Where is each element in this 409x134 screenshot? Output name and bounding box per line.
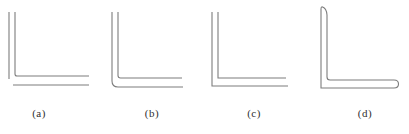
figure-c-label: (c) [247,107,261,119]
figure-c-inner-corner-line [218,12,286,78]
figure-canvas: (a) (b) (c) (d) [0,0,409,134]
figure-a-open-corner [9,12,89,85]
figure-c-outer-corner-line [212,12,288,86]
figure-b-label: (b) [145,107,159,119]
corner-conventions-diagram [0,0,409,134]
figure-d-closed-profile [321,7,399,88]
figure-d-profile-outline [321,7,399,88]
figure-c-sharp-corner [212,12,288,86]
figure-d-label: (d) [358,107,372,119]
figure-a-inner-corner-line [15,12,89,76]
figure-b-inner-corner-line [118,12,182,78]
figure-b-rounded-corner [112,12,183,87]
figure-b-outer-corner-line [112,12,183,87]
figure-a-label: (a) [32,107,46,119]
